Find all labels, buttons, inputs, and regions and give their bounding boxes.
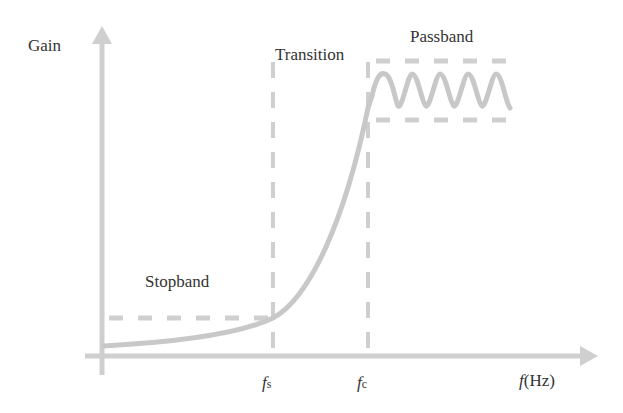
stopband-label: Stopband — [145, 272, 209, 292]
response-curve — [104, 74, 510, 346]
x-axis — [85, 346, 598, 366]
passband-label: Passband — [410, 27, 473, 47]
y-axis-label: Gain — [28, 36, 61, 56]
x-axis-label: f(Hz) — [519, 371, 555, 391]
fc-label: fc — [357, 373, 367, 393]
transition-label: Transition — [275, 45, 344, 65]
fs-label: fs — [262, 373, 271, 393]
y-axis — [92, 26, 112, 375]
